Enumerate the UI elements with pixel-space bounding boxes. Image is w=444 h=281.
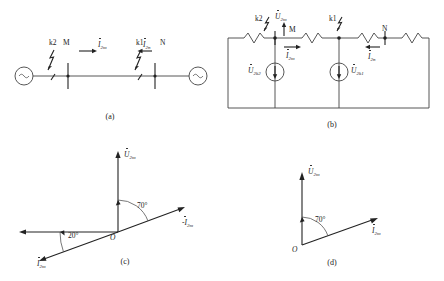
- phasor-voltage: [299, 172, 304, 245]
- panel-d: U2m I2m O 70° (d): [222, 140, 444, 281]
- current-label-sub: 2m: [375, 231, 381, 236]
- impedance-3-icon: [358, 33, 378, 43]
- angle-label-70: 70°: [137, 202, 148, 210]
- current-label-m: I2m: [98, 41, 107, 49]
- impedance-4-icon: [402, 33, 422, 43]
- source-label-left: U2k2: [248, 67, 261, 75]
- bus-label-m: M: [289, 26, 296, 34]
- voltage-label: U2m: [308, 168, 320, 176]
- voltage-label-sub: 2m: [313, 172, 319, 177]
- phasor-current-reverse: [118, 207, 185, 232]
- fault-k2-lightning-icon: [264, 17, 269, 31]
- figure-root: k2 M I2m k1 I2n N (a): [0, 0, 444, 281]
- bus-node-m: [66, 74, 69, 77]
- origin-label: O: [292, 246, 297, 254]
- source-label-right-sub: 2k1: [356, 71, 363, 76]
- angle-arc-70-tip: [300, 217, 305, 222]
- panel-a: k2 M I2m k1 I2n N (a): [0, 0, 222, 140]
- panel-b-caption: (b): [317, 120, 347, 129]
- angle-label-20: 20°: [68, 232, 79, 240]
- panel-c-caption: (c): [110, 257, 140, 266]
- phasor-current: [39, 232, 118, 261]
- fault-k1-lightning-icon: [337, 17, 342, 31]
- current-reverse-label-sub: 2m: [187, 223, 193, 228]
- current-arrow-m: [79, 49, 97, 53]
- current-label-n: I2n: [368, 53, 376, 61]
- impedance-1-icon: [244, 33, 264, 43]
- current-label-n-sub: 2n: [146, 45, 151, 50]
- fault-label-k1: k1: [329, 15, 337, 23]
- impedance-2-icon: [302, 33, 322, 43]
- fault-k1-lightning-icon: [135, 50, 142, 80]
- angle-label-70: 70°: [315, 216, 326, 224]
- phasor-current: [302, 218, 378, 245]
- voltage-label-sub: 2m: [129, 155, 135, 160]
- fault-k2-lightning-icon: [48, 50, 55, 80]
- current-label-n: I2n: [143, 41, 151, 49]
- phasor-voltage: [115, 151, 120, 232]
- bus-label-m: M: [63, 39, 70, 47]
- voltage-label-m-sub: 2m: [280, 17, 286, 22]
- panel-b: k2 U2m M k1 N I2m I2n U2k2 U2k1 (b): [222, 0, 444, 140]
- fault-label-k2: k2: [49, 39, 57, 47]
- source-label-left-sub: 2k2: [253, 71, 260, 76]
- current-reverse-label: -I2m: [182, 219, 193, 227]
- voltage-label: U2m: [124, 151, 136, 159]
- ac-source-right-wave-icon: [193, 74, 203, 78]
- current-label-n-sub: 2n: [371, 57, 376, 62]
- angle-arc-20: [60, 232, 64, 252]
- panel-a-caption: (a): [95, 112, 125, 121]
- current-label: I2m: [37, 260, 46, 268]
- current-label-m-sub: 2m: [101, 45, 107, 50]
- current-label: I2m: [372, 227, 381, 235]
- fault-label-k2: k2: [255, 15, 263, 23]
- voltage-label-m: U2m: [275, 13, 287, 21]
- bus-label-n: N: [382, 25, 387, 33]
- ac-source-left-wave-icon: [19, 74, 29, 78]
- panel-c: U2m -I2m I2m O 70° 20° (c): [0, 140, 222, 281]
- bus-node-n: [153, 74, 156, 77]
- branch-node-k1: [337, 36, 341, 40]
- angle-arc-20-tip: [60, 230, 65, 235]
- current-label-m: I2m: [286, 52, 295, 60]
- current-label-sub: 2m: [40, 264, 46, 269]
- origin-label: O: [110, 234, 115, 242]
- current-arrow-n: [365, 45, 380, 49]
- voltage-arrow-m: [282, 22, 286, 36]
- angle-arc-70-tip: [116, 200, 121, 206]
- current-label-m-sub: 2m: [289, 56, 295, 61]
- panel-d-caption: (d): [317, 258, 347, 267]
- bus-label-n: N: [160, 39, 165, 47]
- source-label-right: U2k1: [351, 67, 364, 75]
